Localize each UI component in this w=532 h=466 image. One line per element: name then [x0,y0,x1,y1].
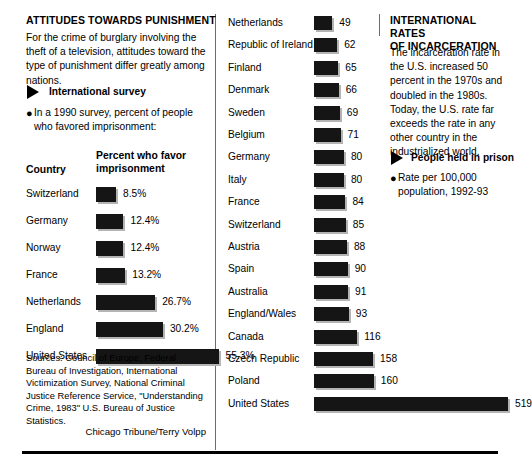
divider-left [215,14,216,450]
left-section-marker [27,85,39,99]
right-bullet-line1: Rate per 100,000 [398,172,477,183]
bullet-dot-icon: ● [26,106,33,120]
chart-row: Switzerland85 [228,216,518,234]
bar-value-label: 12.4% [130,211,159,231]
bar-category-label: Sweden [228,104,265,122]
bar-track: 91 [314,283,508,301]
bar-value-label: 158 [380,350,397,368]
bar-category-label: Norway [26,238,61,258]
bar-value-label: 84 [352,193,363,211]
chart-row: Germany12.4% [26,211,211,231]
bar [314,38,337,52]
bar-track: 116 [314,328,508,346]
bottom-rule [22,451,498,454]
bar-value-label: 160 [381,372,398,390]
bar [96,295,155,310]
bar [314,150,344,164]
chart-row: France13.2% [26,265,211,285]
left-headline: ATTITUDES TOWARDS PUNISHMENT [26,14,216,27]
left-bullet-text: In a 1990 survey, percent of people who … [34,106,210,134]
left-section-title: International survey [49,86,146,97]
bar-track: 158 [314,350,508,368]
bar-category-label: France [26,265,58,285]
bar [96,187,116,202]
attitudes-survey-chart: Switzerland8.5%Germany12.4%Norway12.4%Fr… [26,184,211,334]
bar-category-label: Switzerland [228,216,281,234]
bar-value-label: 80 [351,171,362,189]
bar-category-label: Australia [228,283,268,301]
chart-row: England30.2% [26,319,211,339]
bar [314,307,349,321]
bar-value-label: 49 [339,14,350,32]
right-bullet-text: Rate per 100,000 population, 1992-93 [398,171,516,199]
bar-track: 519 [314,395,508,413]
chart-row: Netherlands26.7% [26,292,211,312]
bar [314,330,357,344]
chart-row: England/Wales93 [228,305,518,323]
bar-track: 13.2% [96,265,229,285]
right-bullet-line2: population, 1992-93 [398,186,488,197]
chart-row: Spain90 [228,260,518,278]
bar-value-label: 90 [355,260,366,278]
bar-value-label: 71 [348,126,359,144]
bar-value-label: 65 [345,59,356,77]
bar-track: 8.5% [96,184,229,204]
bar-category-label: Germany [228,148,270,166]
bar [314,285,348,299]
bar-track: 160 [314,372,508,390]
bar [314,195,345,209]
bar [314,83,339,97]
bar-track: 90 [314,260,508,278]
bar [314,173,344,187]
bar-value-label: 91 [355,283,366,301]
bar [314,106,340,120]
bar-category-label: Poland [228,372,260,390]
bar [314,16,332,30]
left-col-head-country: Country [26,163,66,176]
chart-row: Austria88 [228,238,518,256]
bar [314,240,347,254]
bar-value-label: 93 [356,305,367,323]
bar-category-label: Denmark [228,81,269,99]
chart-row: Switzerland8.5% [26,184,211,204]
bar-track: 93 [314,305,508,323]
bar [96,268,125,283]
bar [314,262,348,276]
bar-track: 85 [314,216,508,234]
bar-value-label: 12.4% [130,238,159,258]
bar-category-label: Spain [228,260,254,278]
chart-row: Poland160 [228,372,518,390]
bar [96,214,123,229]
chart-row: Czech Republic158 [228,350,518,368]
right-section-marker [391,151,403,165]
bar-value-label: 13.2% [132,265,161,285]
bar-track: 12.4% [96,211,229,231]
bar-category-label: Netherlands [26,292,81,312]
bar-value-label: 62 [344,36,355,54]
bar-value-label: 8.5% [123,184,146,204]
bar-value-label: 80 [351,148,362,166]
bar-value-label: 30.2% [170,319,199,339]
bar-category-label: Belgium [228,126,265,144]
bar-category-label: Czech Republic [228,350,299,368]
bar-category-label: Netherlands [228,14,283,32]
right-intro-text: The incarceration rate in the U.S. incre… [390,46,512,160]
chart-row: Norway12.4% [26,238,211,258]
bar-value-label: 519 [515,395,532,413]
bar-track: 88 [314,238,508,256]
bar-category-label: Austria [228,238,260,256]
bar-category-label: United States [228,395,289,413]
chart-row: Canada116 [228,328,518,346]
bar [314,128,341,142]
bar [314,218,346,232]
bar-category-label: Switzerland [26,184,79,204]
left-intro-text: For the crime of burglary involving the … [26,31,210,88]
bullet-dot-icon: ● [390,171,397,185]
bar-category-label: England/Wales [228,305,296,323]
bar [96,241,123,256]
bar-value-label: 26.7% [162,292,191,312]
credit-line: Chicago Tribune/Terry Volpp [26,426,206,437]
left-col-head-value: Percent who favor imprisonment [96,149,208,175]
right-triangle-icon [391,151,403,165]
